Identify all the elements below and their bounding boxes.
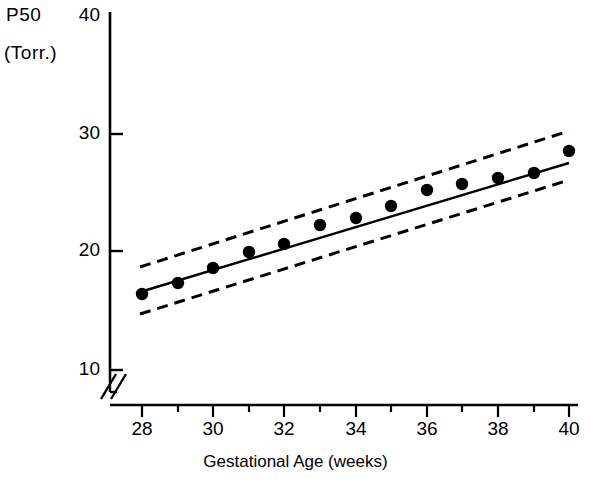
data-point — [350, 212, 362, 224]
data-point — [172, 277, 184, 289]
data-point — [421, 184, 433, 196]
regression-line — [140, 163, 569, 292]
data-point — [456, 178, 468, 190]
data-point — [207, 262, 219, 274]
data-point — [314, 219, 326, 231]
x-axis-ticks — [142, 405, 569, 417]
axis-lines — [110, 12, 578, 405]
data-point — [278, 238, 290, 250]
axis-break-mark — [101, 374, 126, 399]
plot-area — [0, 0, 591, 491]
data-point — [385, 200, 397, 212]
data-point — [243, 246, 255, 258]
data-point — [136, 288, 148, 300]
data-point — [528, 167, 540, 179]
y-axis-ticks — [110, 134, 123, 370]
data-point — [563, 145, 575, 157]
data-point — [492, 172, 504, 184]
data-points — [136, 145, 575, 300]
chart-figure: P50 (Torr.) 40 30 20 10 28 30 32 34 36 3… — [0, 0, 591, 491]
